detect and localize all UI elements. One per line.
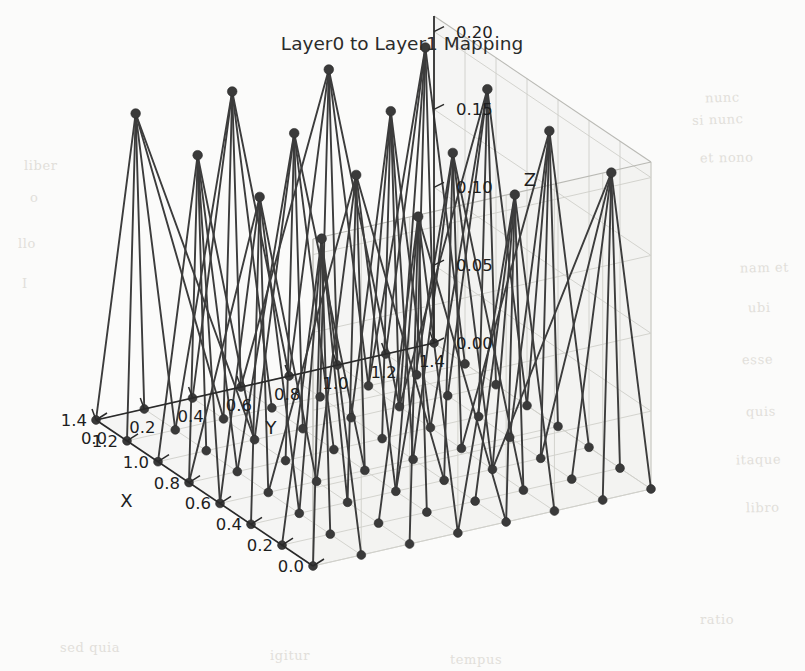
layer1-node-marker[interactable] — [324, 65, 334, 75]
layer0-node-marker[interactable] — [505, 433, 514, 442]
layer0-node-marker[interactable] — [519, 486, 528, 495]
layer0-node-marker[interactable] — [202, 446, 211, 455]
layer0-node-marker[interactable] — [405, 540, 414, 549]
x-tick-label: 1.0 — [123, 453, 149, 472]
layer0-node-marker[interactable] — [567, 475, 576, 484]
layer0-node-marker[interactable] — [474, 412, 483, 421]
layer0-node-marker[interactable] — [585, 443, 594, 452]
y-tick-label: 1.0 — [322, 374, 348, 393]
layer0-node-marker[interactable] — [219, 414, 228, 423]
figure-canvas: 0.00.20.40.60.81.01.21.40.00.20.40.60.81… — [0, 0, 805, 671]
x-tick-label: 0.6 — [185, 494, 211, 513]
layer1-node-marker[interactable] — [227, 87, 237, 97]
layer0-node-marker[interactable] — [554, 422, 563, 431]
layer0-node-marker[interactable] — [171, 425, 180, 434]
layer0-node-marker[interactable] — [443, 391, 452, 400]
z-tick-label: 0.15 — [456, 100, 493, 119]
layer1-node-marker[interactable] — [386, 106, 396, 116]
layer0-node-marker[interactable] — [312, 477, 321, 486]
mapping-edge — [232, 92, 241, 388]
layer0-node-marker[interactable] — [364, 381, 373, 390]
layer1-node-marker[interactable] — [448, 148, 458, 158]
layer0-node-marker[interactable] — [395, 402, 404, 411]
x-tick-label: 0.8 — [154, 474, 180, 493]
layer0-node-marker[interactable] — [488, 465, 497, 474]
layer0-node-marker[interactable] — [523, 401, 532, 410]
layer0-node-marker[interactable] — [502, 518, 511, 527]
layer1-node-marker[interactable] — [131, 109, 141, 119]
layer0-node-marker[interactable] — [264, 488, 273, 497]
layer0-node-marker[interactable] — [357, 551, 366, 560]
y-tick-label: 1.2 — [371, 363, 397, 382]
layer0-node-marker[interactable] — [233, 467, 242, 476]
x-axis-label: X — [120, 490, 132, 511]
y-tick-label: 0.6 — [226, 396, 252, 415]
layer1-node-marker[interactable] — [193, 150, 203, 160]
x-tick-label: 0.2 — [247, 536, 273, 555]
layer1-node-marker[interactable] — [413, 212, 423, 222]
layer0-node-marker[interactable] — [360, 466, 369, 475]
y-tick-label: 0.8 — [274, 385, 300, 404]
x-tick-label: 0.0 — [278, 557, 304, 576]
y-tick-label: 0.0 — [81, 429, 107, 448]
layer1-node-marker[interactable] — [289, 128, 299, 138]
layer0-node-marker[interactable] — [347, 413, 356, 422]
layer0-node-marker[interactable] — [461, 359, 470, 368]
layer1-node-marker[interactable] — [351, 170, 361, 180]
layer1-node-marker[interactable] — [510, 190, 520, 200]
y-axis-label: Y — [265, 417, 278, 438]
z-tick-label: 0.10 — [456, 178, 493, 197]
z-tick-label: 0.05 — [456, 256, 493, 275]
layer0-node-marker[interactable] — [267, 403, 276, 412]
layer0-node-marker[interactable] — [250, 435, 259, 444]
layer0-node-marker[interactable] — [374, 519, 383, 528]
z-axis-label: Z — [524, 169, 536, 190]
y-tick-label: 0.2 — [129, 418, 155, 437]
layer0-node-marker[interactable] — [457, 444, 466, 453]
layer1-node-marker[interactable] — [607, 168, 617, 178]
y-tick-label: 1.4 — [419, 352, 445, 371]
layer0-node-marker[interactable] — [426, 423, 435, 432]
layer0-node-marker[interactable] — [378, 434, 387, 443]
layer0-node-marker[interactable] — [326, 530, 335, 539]
layer0-node-marker[interactable] — [391, 487, 400, 496]
y-tick-label: 0.4 — [177, 407, 203, 426]
x-tick-label: 0.4 — [216, 515, 242, 534]
layer1-node-marker[interactable] — [545, 126, 555, 136]
layer0-node-marker[interactable] — [492, 380, 501, 389]
mapping-edge — [136, 114, 176, 430]
layer0-node-marker[interactable] — [422, 508, 431, 517]
layer0-node-marker[interactable] — [409, 455, 418, 464]
layer0-node-marker[interactable] — [316, 392, 325, 401]
layer1-node-marker[interactable] — [255, 192, 265, 202]
x-tick-label: 1.4 — [61, 411, 87, 430]
chart-title: Layer0 to Layer1 Mapping — [281, 33, 523, 54]
layer0-node-marker[interactable] — [298, 424, 307, 433]
layer0-node-marker[interactable] — [536, 454, 545, 463]
layer0-node-marker[interactable] — [440, 476, 449, 485]
layer0-node-marker[interactable] — [343, 498, 352, 507]
layer0-node-marker[interactable] — [616, 464, 625, 473]
layer1-node-marker[interactable] — [317, 234, 327, 244]
mapping-edge — [136, 114, 145, 410]
layer0-node-marker[interactable] — [647, 485, 656, 494]
layer0-node-marker[interactable] — [550, 507, 559, 516]
z-tick-label: 0.00 — [456, 334, 493, 353]
layer0-node-marker[interactable] — [453, 529, 462, 538]
layer0-node-marker[interactable] — [329, 445, 338, 454]
layer0-node-marker[interactable] — [295, 509, 304, 518]
plot-3d-svg: 0.00.20.40.60.81.01.21.40.00.20.40.60.81… — [0, 0, 805, 671]
layer1-node-marker[interactable] — [483, 84, 493, 94]
layer0-node-marker[interactable] — [471, 497, 480, 506]
mapping-edge — [127, 114, 136, 441]
layer0-node-marker[interactable] — [412, 370, 421, 379]
layer0-node-marker[interactable] — [281, 456, 290, 465]
layer0-node-marker[interactable] — [598, 496, 607, 505]
